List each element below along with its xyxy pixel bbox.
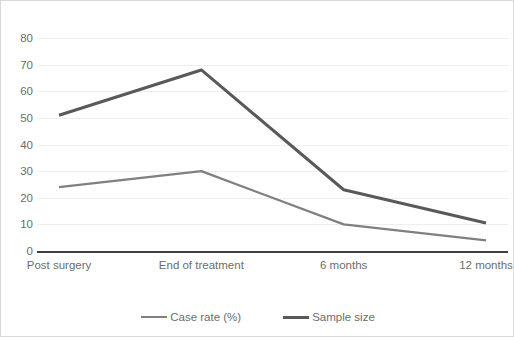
chart-lines xyxy=(1,1,514,337)
x-axis-tick-label: 6 months xyxy=(320,259,367,271)
legend-item[interactable]: Case rate (%) xyxy=(141,311,241,323)
series-line xyxy=(59,70,486,223)
series-line xyxy=(59,171,486,240)
legend-line-icon xyxy=(283,316,309,319)
x-axis-labels: Post surgeryEnd of treatment6 months12 m… xyxy=(37,259,508,277)
legend-line-icon xyxy=(141,316,167,318)
x-axis-tick-label: Post surgery xyxy=(27,259,92,271)
x-axis-tick-label: 12 months xyxy=(459,259,513,271)
x-axis-tick-label: End of treatment xyxy=(159,259,244,271)
chart-figure: 01020304050607080 Post surgeryEnd of tre… xyxy=(0,0,514,337)
legend-item[interactable]: Sample size xyxy=(283,311,375,323)
legend-label: Sample size xyxy=(312,311,375,323)
legend-label: Case rate (%) xyxy=(170,311,241,323)
chart-legend: Case rate (%)Sample size xyxy=(1,311,514,323)
